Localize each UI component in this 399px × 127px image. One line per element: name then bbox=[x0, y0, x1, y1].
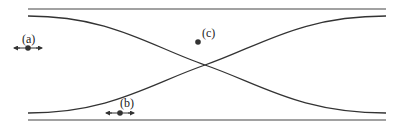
point-a: (a) bbox=[14, 32, 42, 51]
point-dot-icon bbox=[25, 45, 31, 51]
point-label-c: (c) bbox=[202, 26, 215, 40]
point-b: (b) bbox=[106, 96, 134, 116]
point-label-a: (a) bbox=[22, 32, 35, 46]
point-c: (c) bbox=[195, 26, 215, 45]
point-dot-icon bbox=[195, 39, 201, 45]
point-label-b: (b) bbox=[120, 96, 134, 110]
point-dot-icon bbox=[117, 110, 123, 116]
diagram-canvas: (a) (b) (c) bbox=[0, 0, 399, 127]
